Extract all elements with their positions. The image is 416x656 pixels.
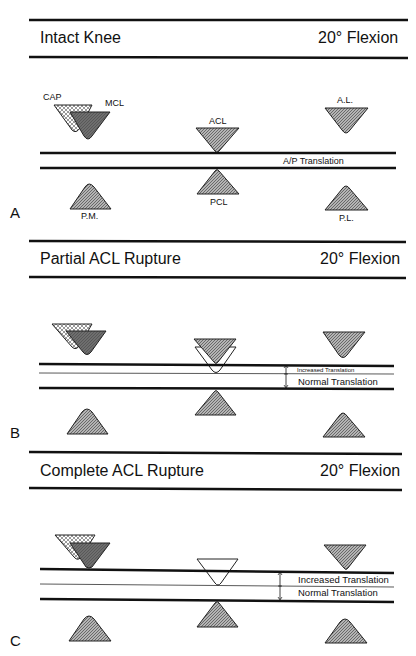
pl-ligament-icon bbox=[325, 186, 368, 210]
label-pl: P.L. bbox=[339, 214, 354, 223]
pcl-ligament-icon bbox=[197, 602, 238, 628]
panel-a-letter: A bbox=[10, 205, 20, 220]
panel-c-letter: C bbox=[10, 633, 21, 648]
pm-ligament-icon bbox=[69, 616, 111, 641]
panel-a-angle: 20° Flexion bbox=[318, 30, 398, 46]
label-acl: ACL bbox=[209, 117, 227, 126]
pm-ligament-icon bbox=[70, 184, 111, 209]
al-ligament-icon bbox=[324, 545, 366, 570]
pm-ligament-icon bbox=[67, 409, 108, 434]
label-pcl: PCL bbox=[210, 198, 228, 207]
panel-b-letter: B bbox=[10, 425, 20, 440]
normal-reference-line bbox=[39, 373, 394, 374]
label-pm: P.M. bbox=[81, 212, 98, 221]
label-mcl: MCL bbox=[105, 99, 124, 108]
pcl-ligament-icon bbox=[195, 391, 236, 416]
pcl-ligament-icon bbox=[197, 170, 239, 195]
header-bottom-rule bbox=[29, 57, 408, 58]
header-bottom-rule bbox=[29, 277, 406, 278]
al-ligament-icon bbox=[323, 332, 365, 358]
knee-ligament-diagram bbox=[0, 0, 416, 656]
header-top-rule bbox=[29, 452, 402, 454]
panel-c-title: Complete ACL Rupture bbox=[40, 463, 204, 479]
panel-b-angle: 20° Flexion bbox=[320, 251, 400, 267]
al-ligament-icon bbox=[325, 108, 368, 133]
label-al: A.L. bbox=[337, 96, 353, 105]
pl-ligament-icon bbox=[323, 413, 365, 437]
header-top-rule bbox=[29, 241, 406, 242]
normal-translation-label: Normal Translation bbox=[298, 377, 378, 387]
panel-b bbox=[29, 241, 406, 437]
increased-translation-label: Increased Translation bbox=[298, 575, 389, 585]
panel-b-title: Partial ACL Rupture bbox=[40, 251, 181, 267]
panel-c-angle: 20° Flexion bbox=[320, 463, 400, 479]
normal-translation-label: Normal Translation bbox=[298, 588, 378, 598]
header-bottom-rule bbox=[29, 488, 402, 490]
label-cap: CAP bbox=[43, 93, 62, 102]
panel-c bbox=[29, 452, 402, 643]
panel-a-title: Intact Knee bbox=[40, 30, 121, 46]
increased-translation-label: Increased Translation bbox=[297, 367, 354, 373]
panel-a bbox=[29, 20, 408, 210]
pl-ligament-icon bbox=[325, 619, 367, 643]
tibia-line bbox=[39, 388, 394, 389]
acl-ligament-icon bbox=[196, 128, 239, 153]
femur-line bbox=[39, 364, 394, 366]
ap-translation-label: A/P Translation bbox=[283, 157, 344, 166]
